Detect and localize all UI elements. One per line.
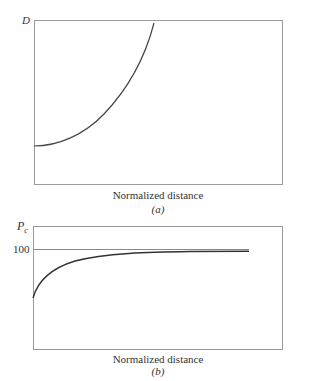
panel-a-curve <box>34 23 154 146</box>
panel-a-caption: (a) <box>0 203 316 215</box>
panel-a-frame <box>35 21 283 185</box>
panel-b-caption: (b) <box>0 365 316 377</box>
panel-b-curve <box>33 251 249 298</box>
panel-b-frame <box>34 227 283 350</box>
panel-b-ylabel-subscript: c <box>24 226 28 235</box>
panel-b-ytick-100: 100 <box>13 243 30 255</box>
panel-a-xlabel: Normalized distance <box>0 189 316 201</box>
panel-b-ylabel: Pc <box>17 219 28 235</box>
panel-b-xlabel: Normalized distance <box>0 353 316 365</box>
panel-a-ylabel: D <box>22 14 30 26</box>
